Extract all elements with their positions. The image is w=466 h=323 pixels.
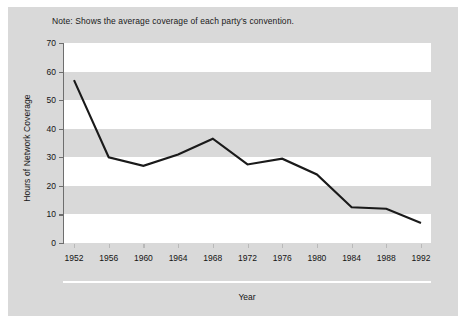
y-tick-labels: 010203040506070 <box>12 0 56 323</box>
x-axis-title: Year <box>63 292 431 302</box>
x-tick-label: 1956 <box>99 253 118 263</box>
x-tick-label: 1964 <box>169 253 188 263</box>
x-tick-mark <box>352 244 353 248</box>
x-tick-label: 1952 <box>65 253 84 263</box>
x-tick-mark <box>386 244 387 248</box>
x-tick-label: 1984 <box>342 253 361 263</box>
x-tick-label: 1972 <box>238 253 257 263</box>
y-tick-mark <box>59 157 63 158</box>
x-tick-label: 1980 <box>307 253 326 263</box>
y-axis-title: Hours of Network Coverage <box>22 88 32 208</box>
x-tick-label: 1988 <box>377 253 396 263</box>
series-polyline <box>74 80 421 223</box>
y-tick-mark <box>59 72 63 73</box>
y-tick-label: 0 <box>16 238 56 248</box>
x-axis-rule <box>63 281 431 283</box>
x-tick-mark <box>213 244 214 248</box>
y-tick-label: 10 <box>16 209 56 219</box>
x-tick-label: 1968 <box>203 253 222 263</box>
plot-area <box>64 43 431 243</box>
x-tick-mark <box>109 244 110 248</box>
x-tick-mark <box>317 244 318 248</box>
chart-note: Note: Shows the average coverage of each… <box>52 16 294 26</box>
x-tick-mark <box>282 244 283 248</box>
x-tick-label: 1976 <box>273 253 292 263</box>
x-tick-mark <box>178 244 179 248</box>
x-tick-mark <box>74 244 75 248</box>
x-tick-label: 1960 <box>134 253 153 263</box>
x-tick-mark <box>143 244 144 248</box>
x-tick-label: 1992 <box>412 253 431 263</box>
y-axis-line <box>63 43 64 244</box>
y-tick-label: 60 <box>16 67 56 77</box>
y-tick-mark <box>59 100 63 101</box>
chart-figure: Note: Shows the average coverage of each… <box>0 0 466 323</box>
y-tick-mark <box>59 243 63 244</box>
series-line-chart <box>64 43 431 243</box>
y-tick-mark <box>59 129 63 130</box>
x-tick-mark <box>421 244 422 248</box>
y-tick-mark <box>59 43 63 44</box>
x-tick-mark <box>248 244 249 248</box>
y-tick-mark <box>59 186 63 187</box>
y-tick-label: 70 <box>16 38 56 48</box>
y-tick-mark <box>59 214 63 215</box>
